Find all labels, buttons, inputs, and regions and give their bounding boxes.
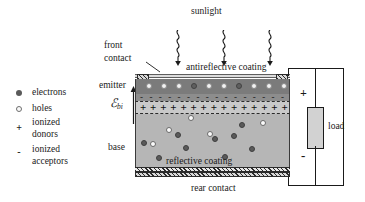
base-hole <box>188 115 194 121</box>
emitter-hole <box>146 83 152 89</box>
script-e-symbol: ℰ <box>110 96 117 110</box>
ionized-acceptor-sign: - <box>253 94 256 101</box>
ionized-donor-sign: + <box>211 102 217 113</box>
emitter-hole <box>206 83 212 89</box>
base-label: base <box>108 142 125 153</box>
ionized-acceptor-sign: - <box>243 94 246 101</box>
ionized-donor-sign: + <box>251 102 257 113</box>
legend-label-holes: holes <box>32 102 52 114</box>
ionized-donor-sign: + <box>241 102 247 113</box>
ionized-acceptor-sign: - <box>215 94 218 101</box>
base-electron <box>212 136 218 142</box>
ionized-acceptor-sign: - <box>206 94 209 101</box>
front-contact-label-line1: front <box>104 40 122 51</box>
legend-label-electrons: electrons <box>32 86 66 98</box>
open-circle-icon <box>12 102 26 114</box>
ionized-acceptor-sign: - <box>149 94 152 101</box>
ionized-donor-sign: + <box>160 102 166 113</box>
ionized-donor-sign: + <box>231 102 237 113</box>
sunlight-label: sunlight <box>191 6 222 17</box>
rear-contact-layer <box>135 172 290 177</box>
legend-label-acceptors: acceptors <box>32 155 68 167</box>
builtin-field-label: ℰbi <box>110 98 123 110</box>
base-electron <box>156 155 162 161</box>
wire-bottom-stub <box>288 177 289 186</box>
base-hole <box>150 141 156 147</box>
ionized-donor-sign: + <box>221 102 227 113</box>
ionized-acceptor-sign: - <box>178 94 181 101</box>
wire-load-bottom <box>315 146 316 186</box>
device-stack: ---------------- +++++++++++++++ reflect… <box>135 74 290 178</box>
antireflective-coating-layer <box>135 74 290 78</box>
load-label: load <box>328 121 344 132</box>
base-electron <box>183 145 189 151</box>
emitter-hole <box>221 83 227 89</box>
load-element <box>307 107 324 149</box>
ionized-donor-sign: + <box>150 102 156 113</box>
ionized-donor-sign: + <box>140 102 146 113</box>
base-layer: reflective coating <box>135 114 290 167</box>
sunlight-ray-icon-2 <box>218 30 230 68</box>
ionized-acceptor-sign: - <box>159 94 162 101</box>
base-electron <box>231 133 237 139</box>
ionized-acceptor-sign: - <box>225 94 228 101</box>
legend-item-holes: holes <box>6 102 106 114</box>
base-electron <box>141 140 147 146</box>
emitter-hole <box>176 83 182 89</box>
ionized-donor-sign: + <box>261 102 267 113</box>
solar-cell-diagram: electrons holes + ionized donors - ioniz… <box>0 0 365 202</box>
terminal-plus-label: + <box>300 88 307 99</box>
ionized-acceptor-sign: - <box>168 94 171 101</box>
emitter-electron <box>191 83 197 89</box>
ionized-acceptor-sign: - <box>187 94 190 101</box>
emitter-hole <box>251 83 257 89</box>
legend-item-ionized-donors: + ionized donors <box>6 116 106 128</box>
legend-label-ionized-2: ionized <box>32 143 60 155</box>
emitter-label: emitter <box>99 80 126 91</box>
emitter-hole <box>161 83 167 89</box>
terminal-minus-label: - <box>301 150 305 161</box>
legend-label-ionized: ionized <box>32 116 60 128</box>
plus-sign-icon: + <box>12 122 26 134</box>
ionized-acceptor-sign: - <box>272 94 275 101</box>
ionized-donor-sign: + <box>170 102 176 113</box>
sunlight-ray-icon-3 <box>264 30 276 68</box>
ionized-donor-sign: + <box>180 102 186 113</box>
legend-item-electrons: electrons <box>6 86 106 98</box>
rear-contact-label: rear contact <box>191 183 236 194</box>
base-electron <box>249 146 255 152</box>
ionized-acceptor-sign: - <box>234 94 237 101</box>
base-hole <box>166 127 172 133</box>
ionized-acceptor-sign: - <box>140 94 143 101</box>
base-electron <box>239 122 245 128</box>
emitter-electron <box>236 83 242 89</box>
ionized-donor-sign: + <box>281 102 287 113</box>
front-contact-label-line2: contact <box>104 53 131 64</box>
ionized-donor-sign: + <box>271 102 277 113</box>
emitter-hole <box>266 83 272 89</box>
ionized-donor-sign: + <box>201 102 207 113</box>
legend-item-ionized-acceptors: - ionized acceptors <box>6 143 106 155</box>
sunlight-ray-icon-1 <box>172 30 184 68</box>
minus-sign-icon: - <box>12 146 26 158</box>
builtin-field-subscript: bi <box>117 102 123 111</box>
reflective-coating-label: reflective coating <box>166 156 232 167</box>
legend-label-donors: donors <box>32 128 58 140</box>
base-hole <box>260 120 266 126</box>
ionized-acceptor-sign: - <box>262 94 265 101</box>
ionized-acceptor-sign: - <box>196 94 199 101</box>
ionized-acceptor-band: ---------------- <box>135 94 290 101</box>
emitter-hole <box>281 83 287 89</box>
filled-circle-icon <box>12 86 26 98</box>
depletion-region-donor-band: +++++++++++++++ <box>135 101 290 114</box>
base-electron <box>175 132 181 138</box>
ionized-acceptor-sign: - <box>281 94 284 101</box>
ionized-donor-sign: + <box>191 102 197 113</box>
